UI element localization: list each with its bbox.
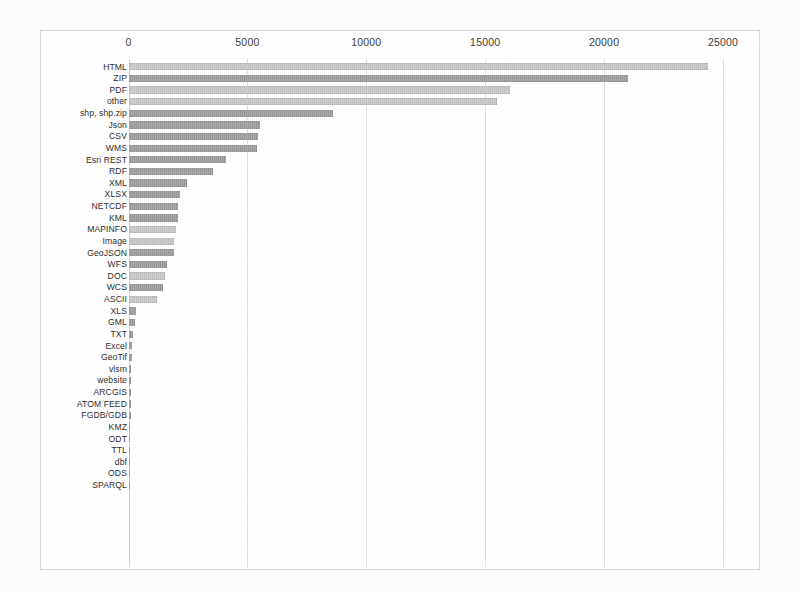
bar-atom-feed [129,400,131,407]
category-label-netcdf: NETCDF [7,202,127,211]
bar-arcgis [129,389,131,396]
bar-row: ATOM FEED [41,398,759,410]
category-label-pdf: PDF [7,86,127,95]
bar-track [129,224,760,236]
x-tick-label-0: 0 [125,36,131,48]
bar-vlsm [129,365,132,372]
bar-row: dbf [41,456,759,468]
x-tick-label-10000: 10000 [351,36,381,48]
bar-row: KMZ [41,421,759,433]
bar-shp-shp-zip [129,110,334,117]
bar-row: vlsm [41,363,759,375]
bar-track [129,363,760,375]
category-label-kml: KML [7,214,127,223]
bar-row: shp, shp.zip [41,108,759,120]
bar-row: Json [41,119,759,131]
bar-row: ARCGIS [41,387,759,399]
bar-row: CSV [41,131,759,143]
bar-track [129,328,760,340]
category-label-doc: DOC [7,272,127,281]
bar-row: GML [41,317,759,329]
category-label-fgdb-gdb: FGDB/GDB [7,411,127,420]
bar-txt [129,331,133,338]
bar-row: RDF [41,166,759,178]
category-label-dbf: dbf [7,458,127,467]
bar-track [129,421,760,433]
bar-row: XML [41,177,759,189]
bar-kmz [129,424,131,431]
bar-website [129,377,132,384]
bar-sparql [129,482,131,489]
category-label-gml: GML [7,318,127,327]
category-label-shp-shp-zip: shp, shp.zip [7,109,127,118]
bar-doc [129,272,165,279]
bar-track [129,480,760,492]
bar-track [129,352,760,364]
bar-json [129,121,260,128]
bar-row: Esri REST [41,154,759,166]
bar-rdf [129,168,214,175]
bar-track [129,317,760,329]
bar-row: NETCDF [41,201,759,213]
category-label-rdf: RDF [7,167,127,176]
category-label-arcgis: ARCGIS [7,388,127,397]
bar-row: TTL [41,445,759,457]
bar-track [129,84,760,96]
bar-row: SPARQL [41,480,759,492]
bar-row: MAPINFO [41,224,759,236]
bar-dbf [129,458,131,465]
bar-row: ZIP [41,73,759,85]
bar-netcdf [129,203,179,210]
bar-rows: HTMLZIPPDFothershp, shp.zipJsonCSVWMSEsr… [41,61,759,491]
category-label-excel: Excel [7,342,127,351]
category-label-atom-feed: ATOM FEED [7,400,127,409]
bar-track [129,445,760,457]
bar-xml [129,179,187,186]
bar-track [129,270,760,282]
bar-track [129,294,760,306]
bar-row: website [41,375,759,387]
bar-fgdb-gdb [129,412,131,419]
category-label-json: Json [7,121,127,130]
category-label-kmz: KMZ [7,423,127,432]
bar-track [129,201,760,213]
category-label-xml: XML [7,179,127,188]
bar-track [129,154,760,166]
bar-row: XLSX [41,189,759,201]
bar-row: ODT [41,433,759,445]
x-tick-label-15000: 15000 [470,36,500,48]
category-label-txt: TXT [7,330,127,339]
bar-row: GeoTif [41,352,759,364]
bar-track [129,398,760,410]
bar-track [129,282,760,294]
bar-esri-rest [129,156,227,163]
chart-frame: 0500010000150002000025000 HTMLZIPPDFothe… [40,30,760,570]
plot-area: 0500010000150002000025000 HTMLZIPPDFothe… [41,31,759,569]
bar-wcs [129,284,163,291]
bar-pdf [129,86,511,93]
category-label-html: HTML [7,63,127,72]
category-label-ttl: TTL [7,446,127,455]
bar-row: HTML [41,61,759,73]
category-label-sparql: SPARQL [7,481,127,490]
bar-row: Excel [41,340,759,352]
category-label-ascii: ASCII [7,295,127,304]
bar-track [129,387,760,399]
bar-kml [129,214,178,221]
bar-track [129,410,760,422]
category-label-wcs: WCS [7,283,127,292]
bar-track [129,73,760,85]
category-label-geotif: GeoTif [7,353,127,362]
bar-track [129,119,760,131]
x-tick-label-25000: 25000 [708,36,738,48]
category-label-wfs: WFS [7,260,127,269]
bar-track [129,235,760,247]
bar-row: WFS [41,259,759,271]
bar-geotif [129,354,132,361]
category-label-xlsx: XLSX [7,190,127,199]
bar-track [129,166,760,178]
bar-track [129,131,760,143]
bar-track [129,189,760,201]
x-tick-label-5000: 5000 [235,36,259,48]
bar-xls [129,307,136,314]
